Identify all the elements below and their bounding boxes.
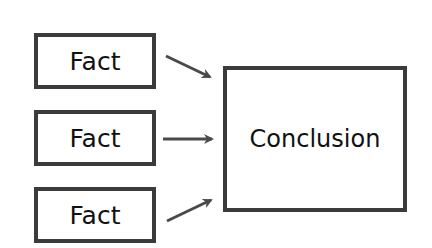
arrow-icon-1 <box>166 56 210 77</box>
conclusion-label: Conclusion <box>250 125 381 153</box>
fact-label-1: Fact <box>70 47 121 76</box>
fact-label-3: Fact <box>70 201 121 230</box>
fact-box-3: Fact <box>34 187 156 243</box>
fact-box-2: Fact <box>34 110 156 166</box>
conclusion-box: Conclusion <box>223 66 407 212</box>
arrow-icon-3 <box>167 200 211 221</box>
fact-box-1: Fact <box>34 33 156 89</box>
fact-label-2: Fact <box>70 124 121 153</box>
